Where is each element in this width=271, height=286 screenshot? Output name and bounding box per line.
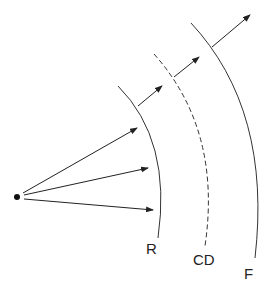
source-point (14, 194, 20, 200)
cd-normal-arrow (174, 57, 199, 77)
ray-arrow-lower (24, 199, 153, 210)
f-normal-arrow (212, 15, 250, 47)
label-r: R (146, 240, 157, 257)
front-cd-arc (154, 54, 208, 246)
r-normal-arrow (138, 86, 162, 106)
label-f: F (244, 265, 253, 282)
front-r-arc (118, 86, 161, 238)
label-cd: CD (193, 251, 215, 268)
diagram-canvas: R CD F (0, 0, 271, 286)
